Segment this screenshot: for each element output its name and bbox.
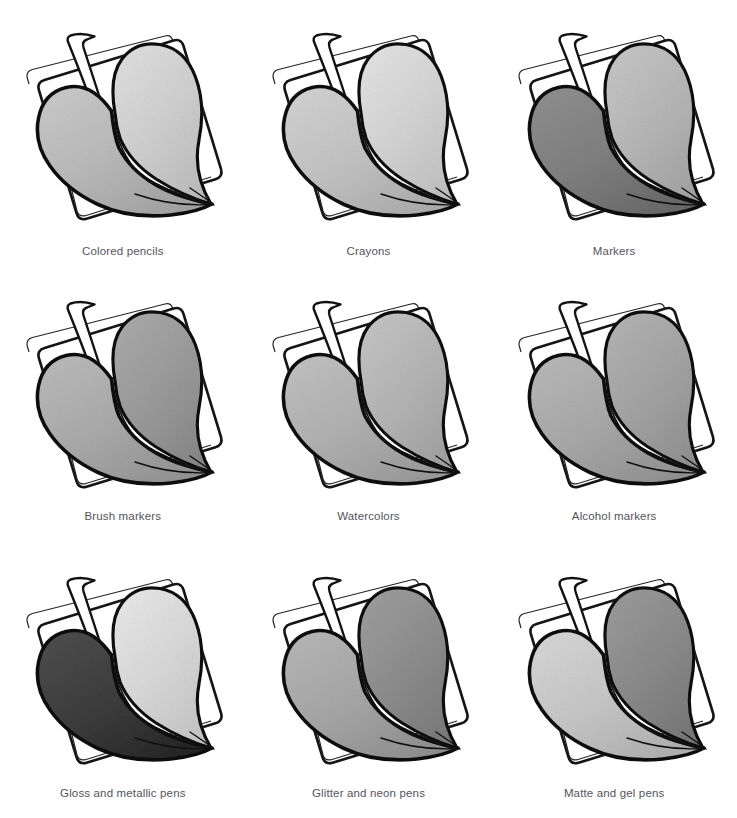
illustration-cell-7: Gloss and metallic pens — [0, 540, 246, 818]
heart-illustration — [261, 18, 476, 230]
caption-3: Markers — [593, 246, 636, 258]
heart-illustration — [507, 18, 722, 230]
caption-1: Colored pencils — [82, 246, 164, 258]
illustration-cell-1: Colored pencils — [0, 0, 246, 276]
heart-illustration — [15, 286, 230, 498]
caption-4: Brush markers — [84, 511, 161, 523]
illustration-cell-4: Brush markers — [0, 276, 246, 540]
illustration-cell-6: Alcohol markers — [491, 276, 737, 540]
illustration-cell-5: Watercolors — [246, 276, 492, 540]
illustration-cell-2: Crayons — [246, 0, 492, 276]
caption-8: Glitter and neon pens — [312, 788, 425, 800]
caption-7: Gloss and metallic pens — [60, 788, 186, 800]
heart-illustration — [15, 562, 230, 774]
caption-5: Watercolors — [337, 511, 400, 523]
illustration-cell-9: Matte and gel pens — [491, 540, 737, 818]
heart-illustration — [261, 562, 476, 774]
heart-illustration — [507, 562, 722, 774]
caption-2: Crayons — [347, 246, 391, 258]
caption-6: Alcohol markers — [572, 511, 657, 523]
illustration-cell-3: Markers — [491, 0, 737, 276]
caption-9: Matte and gel pens — [564, 788, 665, 800]
illustration-cell-8: Glitter and neon pens — [246, 540, 492, 818]
heart-illustration — [261, 286, 476, 498]
heart-illustration — [507, 286, 722, 498]
heart-illustration — [15, 18, 230, 230]
illustration-grid: Colored pencils — [0, 0, 737, 818]
